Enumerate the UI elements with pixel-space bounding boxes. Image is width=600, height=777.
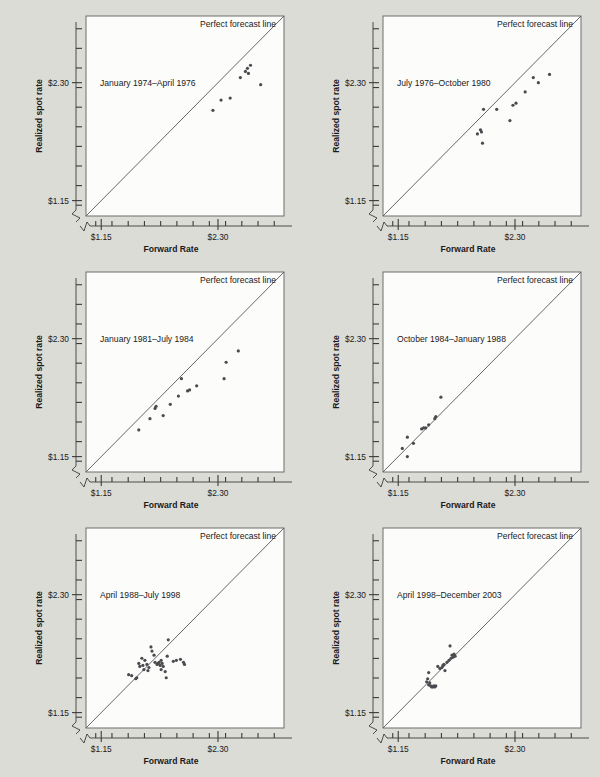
- data-point: [401, 447, 404, 450]
- data-point: [162, 665, 165, 668]
- scatter-panel-1: $1.15$2.30$1.15$2.30Forward RateRealized…: [8, 2, 300, 258]
- data-point: [511, 104, 514, 107]
- x-axis-tick-label: $1.15: [91, 488, 112, 498]
- y-axis-title: Realized spot rate: [34, 335, 44, 409]
- data-point: [514, 102, 517, 105]
- data-point: [524, 90, 527, 93]
- perfect-forecast-line-label: Perfect forecast line: [200, 19, 276, 29]
- data-point: [412, 442, 415, 445]
- perfect-forecast-line-label: Perfect forecast line: [497, 531, 573, 541]
- data-point: [164, 670, 167, 673]
- data-point: [259, 83, 262, 86]
- data-point: [175, 659, 178, 662]
- perfect-forecast-line-label: Perfect forecast line: [497, 19, 573, 29]
- data-point: [425, 680, 428, 683]
- data-point: [427, 671, 430, 674]
- data-point: [428, 681, 431, 684]
- scatter-panel-4: $1.15$2.30$1.15$2.30Forward RateRealized…: [305, 258, 597, 514]
- data-point: [476, 132, 479, 135]
- data-point: [180, 377, 183, 380]
- x-axis-break-mark: [377, 478, 387, 487]
- data-point: [434, 415, 437, 418]
- y-axis-tick-label: $2.30: [48, 78, 69, 88]
- data-point: [160, 668, 163, 671]
- data-point: [427, 423, 430, 426]
- data-point: [167, 638, 170, 641]
- y-axis-break-mark: [72, 466, 80, 478]
- data-point: [239, 76, 242, 79]
- x-axis-tick-label: $1.15: [388, 488, 409, 498]
- y-axis-tick-label: $2.30: [345, 334, 366, 344]
- x-axis-break-mark: [80, 222, 90, 231]
- x-axis-title: Forward Rate: [441, 500, 496, 510]
- data-point: [532, 76, 535, 79]
- y-axis-break-mark: [369, 722, 377, 734]
- panel-period-label: April 1998–December 2003: [397, 590, 502, 600]
- scatter-panel-3: $1.15$2.30$1.15$2.30Forward RateRealized…: [8, 258, 300, 514]
- y-axis-tick-label: $2.30: [345, 590, 366, 600]
- x-axis-title: Forward Rate: [441, 756, 496, 766]
- y-axis-break-mark: [369, 466, 377, 478]
- x-axis-title: Forward Rate: [144, 756, 199, 766]
- data-point: [537, 81, 540, 84]
- data-point: [148, 417, 151, 420]
- scatter-panel-6: $1.15$2.30$1.15$2.30Forward RateRealized…: [305, 514, 597, 776]
- data-point: [143, 659, 146, 662]
- data-point: [453, 655, 456, 658]
- x-axis-tick-label: $1.15: [388, 232, 409, 242]
- data-point: [495, 108, 498, 111]
- y-axis-tick-label: $1.15: [345, 196, 366, 206]
- data-point: [183, 663, 186, 666]
- data-point: [162, 414, 165, 417]
- x-axis-title: Forward Rate: [441, 244, 496, 254]
- y-axis-break-mark: [369, 210, 377, 222]
- x-axis-break-mark: [377, 734, 387, 743]
- data-point: [244, 70, 247, 73]
- y-axis-tick-label: $1.15: [345, 452, 366, 462]
- perfect-forecast-line-label: Perfect forecast line: [200, 531, 276, 541]
- data-point: [127, 673, 130, 676]
- data-point: [442, 663, 445, 666]
- y-axis-tick-label: $1.15: [48, 196, 69, 206]
- scatter-panel-2: $1.15$2.30$1.15$2.30Forward RateRealized…: [305, 2, 597, 258]
- y-axis-title: Realized spot rate: [331, 591, 341, 665]
- data-point: [439, 396, 442, 399]
- data-point: [166, 655, 169, 658]
- x-axis-title: Forward Rate: [144, 500, 199, 510]
- y-axis-break-mark: [72, 210, 80, 222]
- x-axis-tick-label: $1.15: [91, 744, 112, 754]
- data-point: [443, 669, 446, 672]
- scatter-panel-5: $1.15$2.30$1.15$2.30Forward RateRealized…: [8, 514, 300, 776]
- data-point: [147, 666, 150, 669]
- panel-period-label: October 1984–January 1988: [397, 334, 506, 344]
- data-point: [138, 665, 141, 668]
- data-point: [140, 657, 143, 660]
- data-point: [482, 108, 485, 111]
- data-point: [150, 649, 153, 652]
- y-axis-tick-label: $1.15: [48, 708, 69, 718]
- y-axis-title: Realized spot rate: [34, 79, 44, 153]
- x-axis-tick-label: $2.30: [208, 488, 229, 498]
- forecast-scatter-figure: $1.15$2.30$1.15$2.30Forward RateRealized…: [0, 0, 600, 777]
- data-point: [130, 674, 133, 677]
- data-point: [247, 72, 250, 75]
- y-axis-tick-label: $1.15: [48, 452, 69, 462]
- data-point: [142, 668, 145, 671]
- data-point: [548, 73, 551, 76]
- data-point: [229, 96, 232, 99]
- data-point: [406, 455, 409, 458]
- x-axis-tick-label: $2.30: [505, 488, 526, 498]
- data-point: [508, 119, 511, 122]
- data-point: [406, 436, 409, 439]
- data-point: [481, 142, 484, 145]
- y-axis-tick-label: $2.30: [48, 590, 69, 600]
- data-point: [135, 676, 138, 679]
- x-axis-break-mark: [80, 734, 90, 743]
- x-axis-break-mark: [80, 478, 90, 487]
- data-point: [172, 660, 175, 663]
- panel-period-label: July 1976–October 1980: [397, 78, 491, 88]
- data-point: [160, 659, 163, 662]
- perfect-forecast-line-label: Perfect forecast line: [497, 275, 573, 285]
- x-axis-break-mark: [377, 222, 387, 231]
- x-axis-tick-label: $2.30: [505, 744, 526, 754]
